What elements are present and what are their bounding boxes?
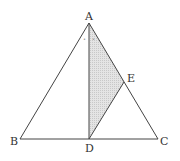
label-a: A (84, 10, 94, 23)
geometry-diagram: • • A B C D E (0, 0, 180, 161)
label-b: B (10, 135, 18, 148)
label-d: D (85, 142, 94, 155)
angle-mark-right: • (92, 36, 95, 42)
label-c: C (160, 135, 168, 148)
label-e: E (127, 72, 135, 85)
segment-ab (20, 23, 89, 139)
angle-mark-left: • (83, 36, 86, 42)
